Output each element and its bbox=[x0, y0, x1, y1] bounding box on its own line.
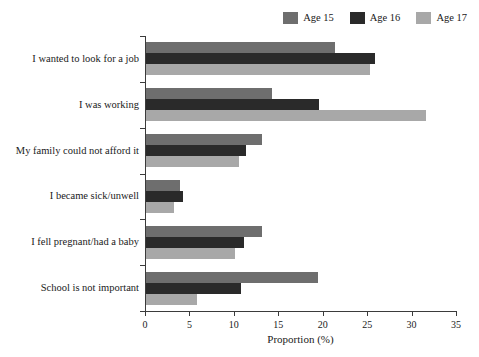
x-axis-title: Proportion (%) bbox=[145, 334, 456, 345]
legend-label: Age 15 bbox=[303, 13, 334, 24]
x-axis-tick-label: 15 bbox=[273, 320, 283, 330]
category-axis-labels: I wanted to look for a jobI was workingM… bbox=[0, 36, 139, 311]
bar bbox=[146, 53, 375, 64]
x-axis-tick-label: 20 bbox=[318, 320, 328, 330]
legend-swatch-icon bbox=[283, 12, 298, 24]
x-axis-tick bbox=[234, 311, 235, 316]
x-axis-tick-label: 35 bbox=[451, 320, 461, 330]
legend-entry[interactable]: Age 15 bbox=[283, 12, 334, 24]
bar bbox=[146, 42, 335, 53]
bar bbox=[146, 226, 262, 237]
x-axis-tick-label: 25 bbox=[362, 320, 372, 330]
y-axis-tick bbox=[140, 128, 145, 129]
x-axis-tick-label: 10 bbox=[229, 320, 239, 330]
category-label: I fell pregnant/had a baby bbox=[31, 237, 139, 248]
x-axis-tick bbox=[278, 311, 279, 316]
x-axis-tick bbox=[367, 311, 368, 316]
x-axis-line bbox=[145, 311, 456, 312]
bar bbox=[146, 134, 262, 145]
bar bbox=[146, 294, 197, 305]
y-axis-tick bbox=[140, 311, 145, 312]
bar bbox=[146, 145, 246, 156]
bar bbox=[146, 191, 183, 202]
bar bbox=[146, 202, 174, 213]
x-axis-tick bbox=[145, 311, 146, 316]
bar bbox=[146, 156, 239, 167]
x-axis-tick-label: 5 bbox=[187, 320, 192, 330]
bar bbox=[146, 110, 426, 121]
legend-label: Age 17 bbox=[436, 13, 467, 24]
legend-label: Age 16 bbox=[370, 13, 401, 24]
y-axis-tick bbox=[140, 36, 145, 37]
legend-swatch-icon bbox=[416, 12, 431, 24]
bar bbox=[146, 64, 370, 75]
bar bbox=[146, 180, 180, 191]
legend-swatch-icon bbox=[350, 12, 365, 24]
x-axis-tick bbox=[189, 311, 190, 316]
category-label: I was working bbox=[79, 100, 139, 111]
y-axis-tick bbox=[140, 265, 145, 266]
bar bbox=[146, 283, 241, 294]
bar bbox=[146, 237, 244, 248]
y-axis-tick bbox=[140, 219, 145, 220]
legend-entry[interactable]: Age 17 bbox=[416, 12, 467, 24]
x-axis-tick bbox=[456, 311, 457, 316]
x-axis-tick bbox=[412, 311, 413, 316]
category-label: I became sick/unwell bbox=[50, 191, 139, 202]
x-axis-tick-label: 0 bbox=[143, 320, 148, 330]
chart-legend: Age 15Age 16Age 17 bbox=[283, 12, 467, 24]
y-axis-tick bbox=[140, 82, 145, 83]
bar-chart: Age 15Age 16Age 17 I wanted to look for … bbox=[0, 0, 479, 357]
category-label: My family could not afford it bbox=[16, 145, 139, 156]
bar bbox=[146, 272, 318, 283]
x-axis-tick bbox=[323, 311, 324, 316]
category-label: School is not important bbox=[41, 283, 139, 294]
y-axis-line bbox=[145, 36, 146, 311]
x-axis-tick-label: 30 bbox=[407, 320, 417, 330]
plot-area: 05101520253035 bbox=[145, 36, 456, 311]
bar bbox=[146, 88, 272, 99]
bar bbox=[146, 99, 319, 110]
legend-entry[interactable]: Age 16 bbox=[350, 12, 401, 24]
category-label: I wanted to look for a job bbox=[32, 54, 139, 65]
y-axis-tick bbox=[140, 174, 145, 175]
bar bbox=[146, 248, 235, 259]
